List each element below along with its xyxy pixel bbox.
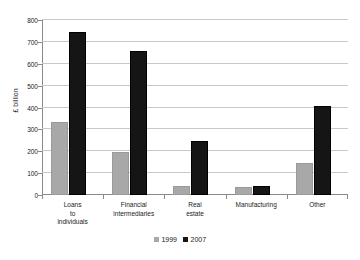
legend-swatch-icon: [183, 237, 188, 242]
x-category-label-line: Loans: [42, 201, 103, 210]
chart-legend: 19992007: [0, 236, 360, 243]
bar-1999[interactable]: [235, 187, 252, 195]
bars-layer: [42, 20, 348, 195]
x-tick-mark: [287, 195, 288, 199]
legend-entry-2007[interactable]: 2007: [183, 236, 206, 243]
bar-1999[interactable]: [173, 186, 190, 195]
x-category-label-line: estate: [164, 210, 225, 219]
x-category-label-line: Real: [164, 201, 225, 210]
bar-chart-figure: £ billion 0100200300400500600700800 Loan…: [0, 0, 360, 260]
bar-group: [103, 20, 164, 195]
legend-label: 1999: [161, 236, 177, 243]
x-category-label: Financialintermediaries: [103, 201, 164, 218]
legend-label: 2007: [191, 236, 207, 243]
x-tick-mark: [103, 195, 104, 199]
x-category-label-line: to: [42, 210, 103, 219]
bar-1999[interactable]: [51, 122, 68, 195]
x-category-label: Other: [287, 201, 348, 210]
bar-group: [287, 20, 348, 195]
x-category-label-line: Other: [287, 201, 348, 210]
bar-group: [226, 20, 287, 195]
bar-2007[interactable]: [253, 186, 270, 195]
x-tick-mark: [226, 195, 227, 199]
x-category-label-line: Financial: [103, 201, 164, 210]
x-category-label: Manufacturing: [226, 201, 287, 210]
x-category-label-line: Manufacturing: [226, 201, 287, 210]
bar-2007[interactable]: [130, 51, 147, 195]
x-category-label-line: individuals: [42, 218, 103, 227]
x-axis-category-labels: LoanstoindividualsFinancialintermediarie…: [42, 201, 348, 235]
y-axis-tick-marks: [0, 20, 44, 195]
bar-group: [42, 20, 103, 195]
bar-1999[interactable]: [296, 163, 313, 195]
bar-2007[interactable]: [69, 32, 86, 195]
x-tick-mark: [42, 195, 43, 199]
bar-group: [164, 20, 225, 195]
legend-swatch-icon: [154, 237, 159, 242]
x-category-label: Loanstoindividuals: [42, 201, 103, 227]
x-axis-tick-marks: [42, 195, 348, 200]
x-category-label-line: intermediaries: [103, 210, 164, 219]
x-tick-mark: [164, 195, 165, 199]
bar-2007[interactable]: [191, 141, 208, 195]
legend-entry-1999[interactable]: 1999: [154, 236, 177, 243]
bar-1999[interactable]: [112, 152, 129, 195]
bar-2007[interactable]: [314, 106, 331, 195]
x-tick-mark: [347, 195, 348, 199]
x-category-label: Realestate: [164, 201, 225, 218]
